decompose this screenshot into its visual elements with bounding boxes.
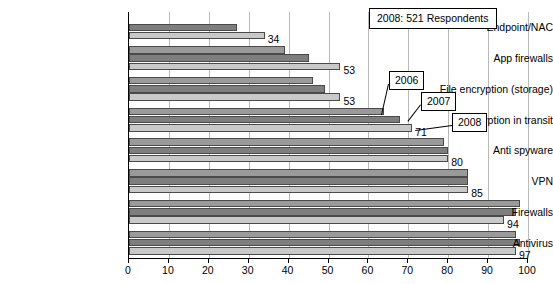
x-tickmark [367, 259, 368, 263]
series-callout-2008: 2008 [452, 113, 487, 132]
category-label-4: Anti spyware [431, 144, 553, 156]
x-tickmark [168, 259, 169, 263]
series-callout-2006: 2006 [389, 71, 424, 90]
bar-2007-2 [129, 85, 325, 93]
x-tickmark [128, 259, 129, 263]
x-tickmark [447, 259, 448, 263]
bar-chart: 0102030405060708090100Endpoint/NAC34App … [0, 0, 553, 284]
bar-2006-2 [129, 77, 313, 85]
x-tick-label: 80 [435, 264, 459, 276]
value-label-3: 71 [415, 126, 427, 138]
bar-2006-3 [129, 108, 384, 116]
value-label-7: 97 [519, 249, 531, 261]
category-label-1: App firewalls [431, 52, 553, 64]
x-tick-label: 100 [515, 264, 539, 276]
value-label-2: 53 [343, 95, 355, 107]
category-label-6: Firewalls [431, 206, 553, 218]
bar-2008-4 [129, 155, 448, 163]
bar-2006-4 [129, 138, 444, 146]
bar-2007-0 [129, 24, 237, 32]
category-label-3: Encryption in transit [431, 114, 553, 126]
bar-2008-5 [129, 186, 468, 194]
value-label-6: 94 [507, 218, 519, 230]
x-tick-label: 10 [156, 264, 180, 276]
x-tickmark [248, 259, 249, 263]
bar-2007-4 [129, 147, 448, 155]
value-label-4: 80 [451, 156, 463, 168]
value-label-5: 85 [471, 187, 483, 199]
bar-2007-5 [129, 177, 468, 185]
value-label-0: 34 [268, 33, 280, 45]
bar-2006-5 [129, 169, 468, 177]
x-tick-label: 30 [236, 264, 260, 276]
x-tickmark [407, 259, 408, 263]
x-tickmark [288, 259, 289, 263]
plot-area [128, 12, 528, 259]
gridline [528, 12, 529, 258]
x-tick-label: 90 [475, 264, 499, 276]
bar-2008-0 [129, 32, 265, 40]
value-label-1: 53 [343, 64, 355, 76]
x-tick-label: 60 [355, 264, 379, 276]
x-tick-label: 40 [276, 264, 300, 276]
x-tickmark [487, 259, 488, 263]
x-tickmark [328, 259, 329, 263]
bar-2008-1 [129, 63, 340, 71]
bar-2008-3 [129, 124, 412, 132]
x-tick-label: 20 [196, 264, 220, 276]
series-callout-2007: 2007 [421, 92, 456, 111]
category-label-5: VPN [431, 175, 553, 187]
category-label-7: Antivirus [431, 237, 553, 249]
x-tick-label: 0 [116, 264, 140, 276]
bar-2006-1 [129, 46, 285, 54]
x-tick-label: 70 [395, 264, 419, 276]
bar-2007-3 [129, 116, 400, 124]
x-tickmark [208, 259, 209, 263]
respondents-note: 2008: 521 Respondents [369, 8, 497, 29]
bar-2007-1 [129, 54, 309, 62]
bar-2008-2 [129, 93, 340, 101]
x-tick-label: 50 [316, 264, 340, 276]
